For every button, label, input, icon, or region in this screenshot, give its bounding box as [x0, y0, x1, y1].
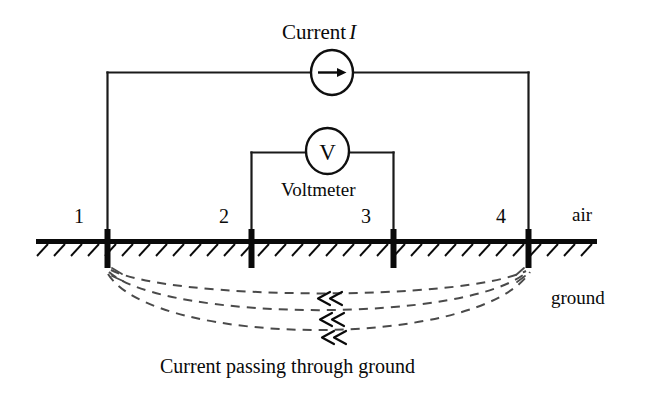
voltmeter-label: Voltmeter [281, 180, 356, 199]
current-label: CurrentI [282, 22, 356, 43]
flow-entry-ticks [112, 268, 525, 282]
current-label-text: Current [282, 20, 346, 44]
ground-hatching [37, 244, 592, 256]
current-flow-arc-middle [109, 271, 528, 310]
air-label: air [572, 205, 592, 224]
electrode-label-3: 3 [361, 206, 371, 226]
flow-arrowhead-middle [320, 313, 344, 326]
current-flow-arc-deep [108, 272, 530, 330]
flow-arrowhead-deep [322, 331, 346, 344]
ground-current-direction-arrows [318, 292, 346, 344]
voltmeter-symbol-letter: V [319, 140, 336, 165]
voltmeter-symbol: V [306, 128, 349, 174]
figure-caption: Current passing through ground [160, 356, 415, 376]
current-flow-arc-shallow [111, 270, 526, 293]
electrode-rods [108, 229, 529, 268]
electrode-label-2: 2 [219, 206, 229, 226]
ground-surface [36, 242, 597, 257]
ground-label: ground [551, 288, 605, 307]
current-source-symbol [311, 50, 353, 95]
electrode-label-1: 1 [74, 206, 84, 226]
current-symbol: I [346, 20, 356, 44]
resistivity-survey-diagram: V [0, 0, 656, 396]
electrode-label-4: 4 [496, 206, 506, 226]
